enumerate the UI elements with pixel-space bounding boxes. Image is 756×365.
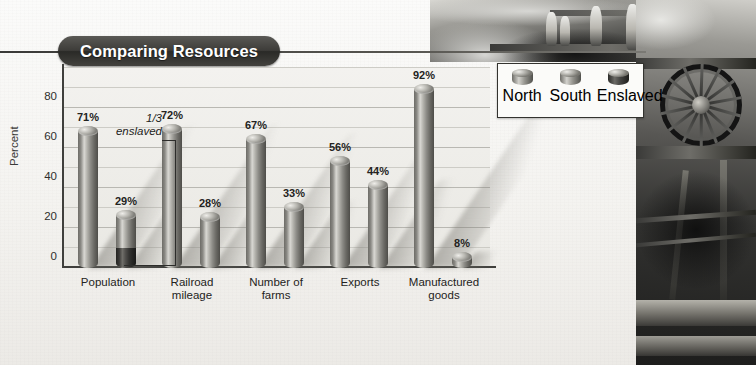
plot-area: 0 20 40 60 80 71% 29% Population [62,68,490,268]
category-label-exports: Exports [341,276,380,289]
bar-group-railroad-mileage: 72% 28% Railroad mileage [154,68,230,268]
y-axis-label: Percent [8,126,20,166]
category-label-population: Population [81,276,135,289]
callout-leader-v [175,140,176,266]
legend-item-north: North [500,69,544,105]
legend-item-south: South [548,69,592,105]
bar-group-exports: 56% 44% Exports [322,68,398,268]
chart: Percent 0 20 40 60 80 71% [0,58,520,293]
category-label-number-of-farms: Number of farms [241,276,311,301]
bar-value-label: 28% [199,197,221,209]
bar-exports-south: 44% [368,180,388,268]
bar-group-number-of-farms: 67% 33% Number of farms [238,68,314,268]
y-tick-80: 80 [44,90,57,102]
bar-value-label: 67% [245,119,267,131]
callout-leader-h1 [162,140,176,141]
bar-railroad-north: 72% [162,124,182,268]
legend: North South Enslaved [497,63,644,118]
y-axis [62,64,64,268]
y-tick-60: 60 [44,130,57,142]
cylinder-swatch-icon [560,69,581,85]
cylinder-swatch-icon [512,69,533,85]
legend-item-enslaved: Enslaved [597,69,641,105]
legend-label: North [500,87,544,105]
bar-value-label: 44% [367,165,389,177]
callout-enslaved-label: 1/3 enslaved [96,112,162,138]
bar-group-manufactured-goods: 92% 8% Manufactured goods [406,68,482,268]
y-tick-40: 40 [44,170,57,182]
bar-exports-north: 56% [330,156,350,268]
bar-population-south: 29% [116,210,136,268]
bar-value-label: 29% [115,195,137,207]
bar-railroad-south: 28% [200,212,220,268]
bar-group-population: 71% 29% Population [70,68,146,268]
callout-leader-h2 [124,265,176,266]
category-label-manufactured-goods: Manufactured goods [406,276,482,301]
bar-value-label: 92% [413,69,435,81]
bar-value-label: 56% [329,141,351,153]
bar-population-north: 71% [78,126,98,268]
bar-manufactured-south: 8% [452,252,472,268]
bar-farms-north: 67% [246,134,266,268]
bar-value-label: 72% [161,109,183,121]
callout-line-2: enslaved [116,125,162,137]
wheel-graphic [660,64,742,146]
legend-label: Enslaved [597,87,641,105]
bar-value-label: 8% [454,237,470,249]
bar-manufactured-north: 92% [414,84,434,268]
y-tick-20: 20 [44,210,57,222]
y-tick-0: 0 [51,250,57,262]
callout-line-1: 1/3 [146,112,162,124]
bar-farms-south: 33% [284,202,304,268]
bar-value-label: 33% [283,187,305,199]
photo-right-locomotive-wheel [636,0,756,365]
cylinder-swatch-dark-icon [608,69,629,85]
category-label-railroad-mileage: Railroad mileage [157,276,227,301]
legend-label: South [548,87,592,105]
